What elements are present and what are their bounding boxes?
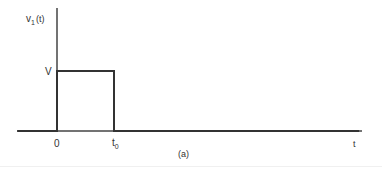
origin-tick-label: 0 <box>54 138 60 149</box>
divider <box>0 166 382 167</box>
figure-caption: (a) <box>178 149 189 159</box>
level-label: V <box>45 66 52 77</box>
x-axis-label: t <box>353 139 356 149</box>
t0-tick-label: t0 <box>112 137 119 150</box>
pulse-waveform <box>17 71 359 131</box>
pulse-diagram: v1(t) V 0 t0 t (a) <box>0 0 382 170</box>
y-axis-label: v1(t) <box>26 13 44 26</box>
